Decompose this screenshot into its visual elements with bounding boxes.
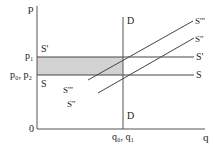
s-double-prime-left-label: S'' <box>67 99 75 109</box>
quantity-label-q0-q1: q₀, q₁ <box>112 132 134 142</box>
s-triple-prime-right-label: S''' <box>195 16 205 26</box>
s-prime-left-label: S' <box>41 44 48 54</box>
demand-bottom-label: D <box>127 111 134 121</box>
origin-label: 0 <box>29 124 34 134</box>
s-double-prime-right-label: S'' <box>195 34 203 44</box>
demand-top-label: D <box>127 16 134 26</box>
s-triple-prime-left-label: S''' <box>63 85 73 95</box>
s-right-label: S <box>196 70 202 80</box>
supply-curve-s-triple-prime <box>88 21 193 80</box>
s-left-label: S <box>41 79 47 89</box>
x-axis-label: q <box>203 132 209 142</box>
price-label-p1: p₁ <box>25 51 34 61</box>
shaded-area <box>37 57 123 75</box>
s-prime-right-label: S' <box>196 52 203 62</box>
price-label-p0-p2: p₀, p₂ <box>10 70 32 80</box>
y-axis-label: p <box>28 3 34 13</box>
